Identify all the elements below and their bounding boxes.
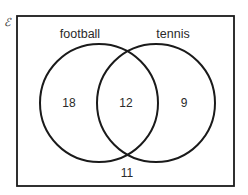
tennis-only-value: 9 [181, 96, 188, 110]
tennis-label: tennis [156, 27, 189, 41]
football-only-value: 18 [62, 96, 75, 110]
tennis-circle [97, 44, 215, 162]
outside-value: 11 [121, 166, 133, 180]
football-circle [40, 44, 158, 162]
universal-set-symbol: ℰ [4, 16, 11, 29]
intersection-value: 12 [119, 96, 132, 110]
football-label: football [60, 27, 100, 41]
